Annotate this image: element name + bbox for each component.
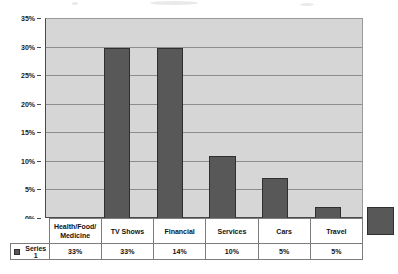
plot-area-container	[45, 18, 363, 218]
table-category-label-line: TV Shows	[102, 227, 153, 236]
scan-artifact	[300, 3, 314, 6]
bar[interactable]	[157, 48, 183, 235]
table-value-cell: 33%	[49, 244, 101, 260]
y-axis-tick-label: 35%	[21, 15, 35, 22]
table-value-cell: 33%	[101, 244, 153, 260]
scan-artifact	[150, 1, 198, 5]
legend-label: Series 1	[23, 245, 49, 259]
y-axis-tick-label: 25%	[21, 72, 35, 79]
legend-entry: Series 1	[14, 245, 49, 259]
chart-data-table: Health/Food/MedicineTV ShowsFinancialSer…	[10, 218, 363, 260]
table-category-label-line: Cars	[259, 227, 310, 236]
table-value-cell: 10%	[206, 244, 258, 260]
y-axis: 35%30%25%20%15%10%5%0%	[0, 18, 41, 218]
bar[interactable]	[367, 207, 393, 235]
table-value-cell: 14%	[154, 244, 206, 260]
bar-slot	[302, 37, 355, 235]
bar[interactable]	[104, 48, 130, 235]
bar-slot	[354, 37, 398, 235]
table-category-label-line: Medicine	[50, 231, 101, 240]
table-row-categories: Health/Food/MedicineTV ShowsFinancialSer…	[11, 219, 363, 244]
bar-slot	[249, 37, 302, 235]
y-axis-tick-label: 5%	[25, 186, 35, 193]
series-1-swatch-icon	[14, 249, 20, 255]
table-category-label-line: Travel	[311, 227, 362, 236]
table-category-label-line: Services	[206, 227, 257, 236]
table-value-cell: 5%	[258, 244, 310, 260]
y-axis-tick-label: 30%	[21, 43, 35, 50]
table-category-label-line: Health/Food/	[50, 222, 101, 231]
table-row-series1: Series 133%33%14%10%5%5%	[11, 244, 363, 260]
y-axis-tick-mark	[37, 18, 41, 19]
bars-layer	[91, 37, 398, 235]
y-axis-tick-mark	[37, 104, 41, 105]
bar-slot	[144, 37, 197, 235]
y-axis-tick-label: 15%	[21, 129, 35, 136]
table-category-cell: Cars	[258, 219, 310, 244]
bar-slot	[91, 37, 144, 235]
y-axis-tick-mark	[37, 47, 41, 48]
y-axis-tick-label: 10%	[21, 157, 35, 164]
scan-artifact	[72, 2, 78, 5]
y-axis-tick-mark	[37, 161, 41, 162]
y-axis-tick-label: 20%	[21, 100, 35, 107]
y-axis-tick-mark	[37, 75, 41, 76]
table-value-cell: 5%	[310, 244, 362, 260]
legend-cell: Series 1	[11, 244, 50, 260]
y-axis-tick-mark	[37, 189, 41, 190]
table-category-cell: TV Shows	[101, 219, 153, 244]
y-axis-tick-mark	[37, 132, 41, 133]
table-category-label-line: Financial	[154, 227, 205, 236]
bar-slot	[196, 37, 249, 235]
table-category-cell: Health/Food/Medicine	[49, 219, 101, 244]
table-category-cell: Travel	[310, 219, 362, 244]
table-category-cell: Financial	[154, 219, 206, 244]
table-category-cell: Services	[206, 219, 258, 244]
table-legend-blank-cell	[11, 219, 50, 244]
